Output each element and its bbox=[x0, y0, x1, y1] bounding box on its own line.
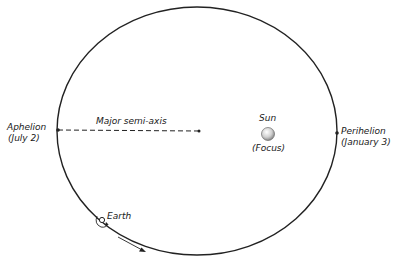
major-semi-axis-label: Major semi-axis bbox=[96, 116, 167, 127]
sun-label: Sun bbox=[259, 113, 276, 124]
perihelion-date-label: (January 3) bbox=[341, 137, 391, 148]
rotation-arrowhead-icon bbox=[105, 222, 109, 226]
earth-icon bbox=[99, 217, 104, 222]
aphelion-label: Aphelion bbox=[7, 122, 46, 133]
earth-label: Earth bbox=[107, 211, 131, 222]
perihelion-label: Perihelion bbox=[341, 126, 386, 137]
focus-label: (Focus) bbox=[252, 143, 285, 154]
aphelion-point bbox=[56, 128, 60, 132]
center-point bbox=[198, 130, 201, 133]
direction-arrowhead-icon bbox=[139, 248, 146, 253]
perihelion-point bbox=[335, 131, 339, 135]
aphelion-date-label: (July 2) bbox=[8, 133, 40, 144]
orbit-diagram bbox=[0, 0, 400, 260]
major-semi-axis-line bbox=[58, 130, 199, 131]
sun-icon bbox=[262, 128, 275, 141]
